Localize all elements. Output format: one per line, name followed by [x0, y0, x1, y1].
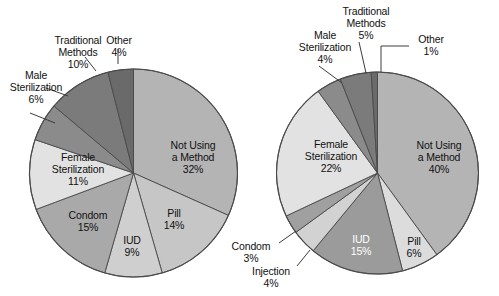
right-label-not-using-a-method: Not Using a Method 40%	[396, 139, 482, 176]
figure-canvas: Not Using a Method 32% Pill 14% IUD 9% C…	[0, 0, 499, 296]
left-iud-name: IUD	[111, 234, 153, 246]
leader-line-male-right	[319, 66, 342, 83]
right-other-pct: 1%	[410, 45, 452, 57]
right-not-using-line2: a Method	[396, 151, 482, 163]
right-injection-name: Injection	[240, 265, 302, 277]
left-other-name: Other	[99, 34, 139, 46]
right-label-other: Other 1%	[410, 33, 452, 57]
left-male-pct: 6%	[0, 93, 72, 105]
right-condom-name: Condom	[222, 240, 280, 252]
right-label-traditional-methods: Traditional Methods 5%	[330, 5, 402, 42]
left-label-other: Other 4%	[99, 34, 139, 58]
right-pill-name: Pill	[394, 235, 434, 247]
right-injection-pct: 4%	[240, 277, 302, 289]
right-female-pct: 22%	[290, 162, 372, 174]
left-male-line2: Sterilization	[0, 81, 72, 93]
right-iud-name: IUD	[340, 233, 382, 245]
right-trad-line2: Methods	[330, 17, 402, 29]
right-trad-line1: Traditional	[330, 5, 402, 17]
left-female-line1: Female	[37, 151, 119, 163]
right-male-pct: 4%	[289, 53, 361, 65]
left-label-pill: Pill 14%	[151, 207, 197, 231]
leader-line-condom-right	[279, 231, 296, 243]
left-condom-name: Condom	[53, 209, 123, 221]
left-pill-pct: 14%	[151, 219, 197, 231]
right-trad-pct: 5%	[330, 29, 402, 41]
right-not-using-line1: Not Using	[396, 139, 482, 151]
left-label-male-sterilization: Male Sterilization 6%	[0, 69, 72, 106]
left-male-line1: Male	[0, 69, 72, 81]
left-label-female-sterilization: Female Sterilization 11%	[37, 151, 119, 188]
right-not-using-pct: 40%	[396, 163, 482, 175]
left-not-using-pct: 32%	[150, 163, 236, 175]
left-label-not-using-a-method: Not Using a Method 32%	[150, 139, 236, 176]
right-iud-pct: 15%	[340, 245, 382, 257]
left-other-pct: 4%	[99, 46, 139, 58]
leader-line-injection-right	[297, 250, 310, 266]
left-female-pct: 11%	[37, 175, 119, 187]
right-label-condom: Condom 3%	[222, 240, 280, 264]
right-label-injection: Injection 4%	[240, 265, 302, 289]
left-iud-pct: 9%	[111, 246, 153, 258]
right-condom-pct: 3%	[222, 252, 280, 264]
left-label-condom: Condom 15%	[53, 209, 123, 233]
left-pill-name: Pill	[151, 207, 197, 219]
right-male-line2: Sterilization	[289, 41, 361, 53]
right-label-iud: IUD 15%	[340, 233, 382, 257]
right-label-female-sterilization: Female Sterilization 22%	[290, 138, 372, 175]
right-other-name: Other	[410, 33, 452, 45]
left-condom-pct: 15%	[53, 221, 123, 233]
right-label-pill: Pill 6%	[394, 235, 434, 259]
right-female-line1: Female	[290, 138, 372, 150]
left-female-line2: Sterilization	[37, 163, 119, 175]
left-not-using-line1: Not Using	[150, 139, 236, 151]
right-pill-pct: 6%	[394, 247, 434, 259]
right-female-line2: Sterilization	[290, 150, 372, 162]
left-trad-pct: 10%	[42, 58, 114, 70]
left-not-using-line2: a Method	[150, 151, 236, 163]
left-label-iud: IUD 9%	[111, 234, 153, 258]
